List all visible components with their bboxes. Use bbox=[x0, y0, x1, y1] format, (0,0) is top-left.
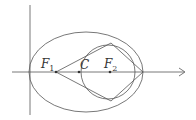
ellipse-diagram: F1 C F2 bbox=[0, 0, 196, 120]
label-f1: F1 bbox=[40, 57, 54, 73]
label-c: C bbox=[80, 58, 89, 72]
label-f2: F2 bbox=[103, 57, 117, 73]
point-f2 bbox=[109, 71, 112, 74]
point-f1 bbox=[55, 71, 58, 74]
